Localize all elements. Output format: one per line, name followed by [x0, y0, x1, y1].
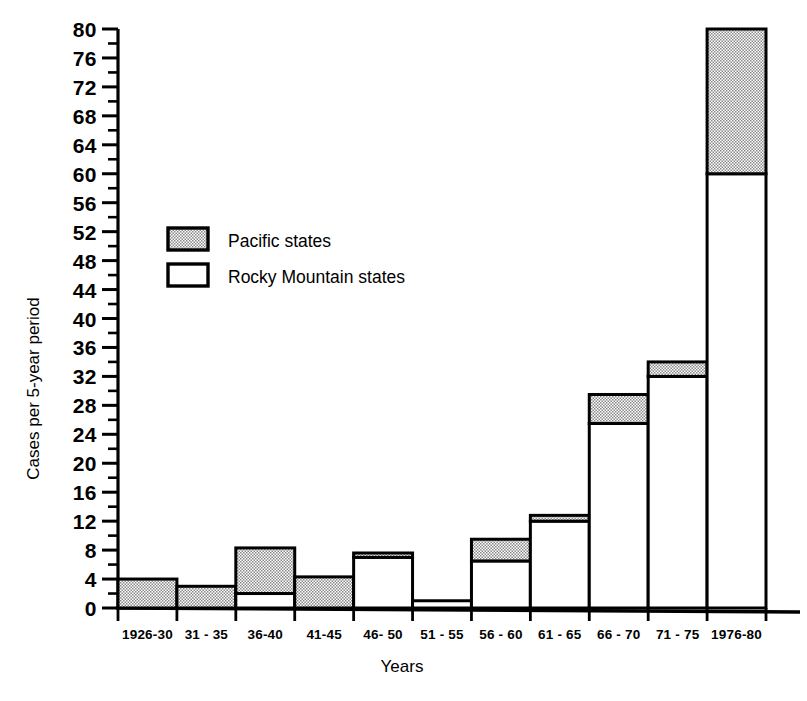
bar-segment-pacific: [354, 553, 413, 557]
y-tick-label: 36: [73, 336, 97, 359]
bar-segment-rocky-mountain: [236, 594, 295, 608]
bar-segment-rocky-mountain: [413, 601, 472, 608]
bar-segment-rocky-mountain: [354, 557, 413, 608]
bar-group: [118, 579, 177, 608]
y-tick-label: 8: [85, 539, 97, 562]
bars-layer: [118, 29, 766, 608]
y-tick-label: 0: [85, 597, 97, 620]
bar-segment-pacific: [648, 362, 707, 376]
y-tick-label: 72: [73, 76, 97, 99]
chart-legend: Pacific statesRocky Mountain states: [168, 228, 405, 287]
legend-swatch-pacific: [168, 228, 208, 250]
x-tick-label: 51 - 55: [420, 627, 464, 642]
bar-segment-rocky-mountain: [589, 423, 648, 608]
x-tick-label: 41-45: [306, 627, 342, 642]
bar-group: [471, 539, 530, 608]
y-tick-label: 52: [73, 221, 97, 244]
y-tick-label: 20: [73, 452, 97, 475]
x-tick-label: 71 - 75: [656, 627, 700, 642]
y-tick-label: 56: [73, 192, 97, 215]
bar-segment-pacific: [530, 515, 589, 521]
y-tick-label: 16: [73, 481, 97, 504]
y-tick-label: 64: [73, 134, 97, 157]
y-tick-label: 24: [73, 423, 97, 446]
x-tick-label: 46- 50: [363, 627, 402, 642]
bar-segment-rocky-mountain: [471, 561, 530, 608]
y-tick-label: 12: [73, 510, 97, 533]
legend-label: Pacific states: [228, 231, 331, 251]
bar-group: [236, 548, 295, 608]
bar-group: [707, 29, 766, 608]
bar-segment-rocky-mountain: [530, 521, 589, 608]
legend-label: Rocky Mountain states: [228, 267, 405, 287]
bar-segment-rocky-mountain: [707, 174, 766, 608]
x-tick-label: 1926-30: [122, 627, 173, 642]
y-tick-label: 68: [73, 105, 97, 128]
x-tick-label: 56 - 60: [479, 627, 522, 642]
bar-segment-pacific: [118, 579, 177, 608]
y-tick-label: 40: [73, 308, 97, 331]
bar-segment-pacific: [471, 539, 530, 561]
x-tick-label: 66 - 70: [597, 627, 640, 642]
y-tick-label: 4: [85, 568, 97, 591]
bar-group: [177, 586, 236, 608]
bar-segment-pacific: [177, 586, 236, 608]
y-tick-label: 32: [73, 365, 97, 388]
bar-group: [354, 553, 413, 608]
bar-segment-pacific: [236, 548, 295, 594]
bar-group: [589, 394, 648, 608]
bar-group: [530, 515, 589, 608]
y-tick-label: 48: [73, 250, 97, 273]
y-tick-label: 80: [73, 18, 97, 41]
bar-group: [295, 577, 354, 608]
bar-segment-pacific: [707, 29, 766, 174]
bar-chart-canvas: 048121620242832364044485256606468727680 …: [0, 0, 807, 701]
x-axis: 1926-3031 - 3536-4041-4546- 5051 - 5556 …: [116, 608, 800, 642]
x-axis-title: Years: [381, 657, 424, 676]
chart-figure: 048121620242832364044485256606468727680 …: [0, 0, 807, 701]
bar-segment-pacific: [295, 577, 354, 608]
bar-group: [648, 362, 707, 608]
y-tick-label: 44: [73, 279, 97, 302]
y-axis: 048121620242832364044485256606468727680: [73, 18, 118, 620]
bar-group: [413, 601, 472, 608]
x-tick-label: 1976-80: [711, 627, 762, 642]
x-tick-label: 36-40: [248, 627, 284, 642]
bar-segment-rocky-mountain: [648, 376, 707, 608]
x-tick-label: 31 - 35: [185, 627, 229, 642]
y-tick-label: 28: [73, 394, 97, 417]
legend-swatch-rocky-mountain: [168, 264, 208, 286]
y-tick-label: 76: [73, 47, 97, 70]
y-tick-label: 60: [73, 163, 97, 186]
y-axis-title: Cases per 5-year period: [24, 297, 43, 479]
bar-segment-pacific: [589, 394, 648, 423]
x-tick-label: 61 - 65: [538, 627, 582, 642]
